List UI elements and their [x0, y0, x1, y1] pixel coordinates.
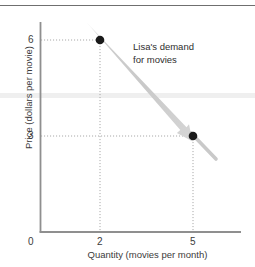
annotation-line-1: Lisa's demand — [133, 41, 194, 54]
x-tick-label-5: 5 — [190, 236, 196, 247]
x-tick-label-0: 0 — [28, 236, 34, 247]
x-tick-label-2: 2 — [97, 236, 103, 247]
demand-curve-annotation: Lisa's demand for movies — [133, 41, 194, 66]
chart-canvas — [0, 0, 255, 267]
data-point-marker-2-6 — [96, 36, 105, 45]
y-axis-title: Price (dollars per movie) — [23, 23, 34, 173]
annotation-line-2: for movies — [133, 54, 194, 67]
data-point-marker-5-3 — [189, 132, 198, 141]
demand-curve-figure: 6 3 0 2 5 Price (dollars per movie) Quan… — [0, 0, 255, 267]
x-axis-title: Quantity (movies per month) — [40, 249, 255, 260]
